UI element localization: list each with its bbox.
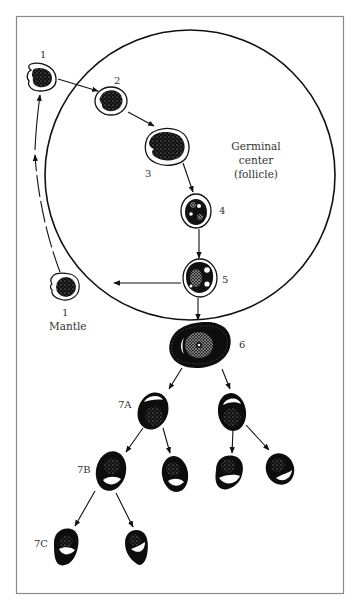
- stage-label-7a: 7A: [118, 399, 132, 410]
- germinal-center-label-line3: (follicle): [234, 168, 278, 180]
- arrow-right-to-child-1: [232, 430, 233, 453]
- cell-stage-4: [181, 194, 211, 228]
- stage-label-3: 3: [145, 168, 151, 179]
- cell-stage-5: [183, 259, 217, 297]
- cell-stage-6: [169, 322, 230, 368]
- cell-stage-7a: [132, 388, 173, 434]
- germinal-center-label-line2: center: [239, 154, 274, 166]
- arrow-right-to-child-2: [246, 425, 269, 450]
- stage-label-7b: 7B: [77, 464, 91, 475]
- stage-label-5: 5: [222, 274, 228, 285]
- arrow-7b-to-7c: [75, 491, 95, 526]
- cell-stage-3: [145, 129, 189, 166]
- arrow-6-to-7a-sibling: [222, 369, 230, 389]
- arrow-7a-to-7b-sibling: [163, 428, 170, 453]
- stage-label-1-mantle: 1: [62, 307, 68, 318]
- arrow-6-to-7a: [169, 368, 182, 389]
- cell-stage-7a-sibling: [215, 391, 248, 433]
- cell-stage-7b-sibling: [159, 454, 191, 494]
- cell-right-child-2: [261, 449, 298, 489]
- arrow-7b-to-7c-sibling: [116, 493, 133, 527]
- stage-label-1: 1: [40, 49, 46, 60]
- cell-stage-7c: [54, 529, 79, 566]
- cell-stage-7b: [92, 448, 130, 493]
- cell-stage-2: [95, 87, 127, 115]
- arrow-1-to-2: [58, 79, 98, 91]
- cell-stage-1: [27, 63, 56, 91]
- stage-label-2: 2: [114, 75, 120, 86]
- stage-label-6: 6: [239, 339, 245, 350]
- arrow-7a-to-7b: [126, 428, 143, 452]
- return-path-line-top: [35, 95, 40, 150]
- cell-stage-7c-sibling: [125, 530, 148, 565]
- stage-label-7c: 7C: [34, 538, 48, 549]
- b-cell-diagram: 1 2 3 4 5 1 M: [0, 0, 359, 608]
- return-path-line: [35, 155, 60, 272]
- cell-stage-1-mantle: [51, 273, 80, 300]
- figure-frame: [17, 17, 344, 594]
- mantle-label: Mantle: [49, 320, 87, 332]
- stage-label-4: 4: [219, 205, 225, 216]
- arrow-3-to-4: [183, 163, 193, 192]
- arrow-2-to-3: [128, 112, 154, 126]
- germinal-center-label-line1: Germinal: [231, 140, 281, 152]
- cell-right-child-1: [215, 456, 242, 490]
